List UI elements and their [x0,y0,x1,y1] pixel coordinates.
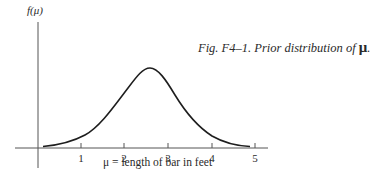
figure-caption: Fig. F4–1. Prior distribution of μ. [198,39,370,56]
caption-text: Fig. F4–1. Prior distribution of [198,41,359,55]
x-tick-label: 1 [74,152,88,164]
x-axis-label: μ = length of bar in feet [103,156,212,168]
y-axis-label: f(μ) [27,4,43,16]
x-tick-label: 5 [248,152,262,164]
density-curve [43,68,250,147]
